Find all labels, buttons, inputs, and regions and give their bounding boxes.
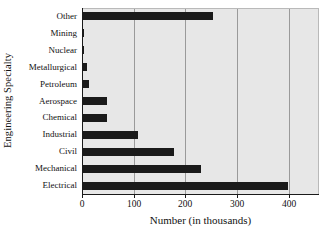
x-tick-label-100: 100: [127, 199, 141, 209]
y-tick-label-electrical: Electrical: [11, 181, 77, 190]
x-tick-label-400: 400: [282, 199, 296, 209]
y-tick-label-chemical: Chemical: [11, 113, 77, 122]
x-tick-mark-300: [237, 194, 238, 198]
gridline-x-300: [237, 8, 238, 194]
gridline-x-400: [289, 8, 290, 194]
axis-spine-left: [82, 8, 83, 195]
y-tick-label-mining: Mining: [11, 29, 77, 38]
y-tick-label-petroleum: Petroleum: [11, 80, 77, 89]
x-tick-label-0: 0: [80, 199, 85, 209]
y-tick-label-other: Other: [11, 12, 77, 21]
bar-electrical: [82, 182, 288, 190]
y-tick-label-civil: Civil: [11, 147, 77, 156]
x-tick-label-200: 200: [178, 199, 192, 209]
bar-mechanical: [82, 165, 201, 173]
bar-petroleum: [82, 80, 89, 88]
y-tick-label-industrial: Industrial: [11, 130, 77, 139]
x-axis-title: Number (in thousands): [82, 214, 319, 226]
bar-civil: [82, 148, 174, 156]
x-tick-mark-0: [82, 194, 83, 198]
axis-spine-bottom: [82, 194, 319, 195]
x-tick-mark-200: [185, 194, 186, 198]
y-axis-tick-labels: ElectricalMechanicalCivilIndustrialChemi…: [14, 8, 80, 194]
bar-chemical: [82, 114, 107, 122]
x-tick-mark-400: [289, 194, 290, 198]
bar-industrial: [82, 131, 138, 139]
y-tick-label-mechanical: Mechanical: [11, 164, 77, 173]
y-tick-label-aerospace: Aerospace: [11, 97, 77, 106]
bar-aerospace: [82, 97, 107, 105]
axis-spine-right: [318, 8, 319, 195]
x-tick-label-300: 300: [230, 199, 244, 209]
x-tick-mark-100: [134, 194, 135, 198]
plot-inner: [82, 8, 318, 194]
y-tick-label-nuclear: Nuclear: [11, 46, 77, 55]
bar-chart-figure: Engineering Specialty ElectricalMechanic…: [0, 0, 331, 237]
plot-area: [82, 8, 318, 194]
axis-spine-top: [82, 8, 319, 9]
y-tick-label-metallurgical: Metallurgical: [11, 63, 77, 72]
bar-other: [82, 12, 213, 20]
